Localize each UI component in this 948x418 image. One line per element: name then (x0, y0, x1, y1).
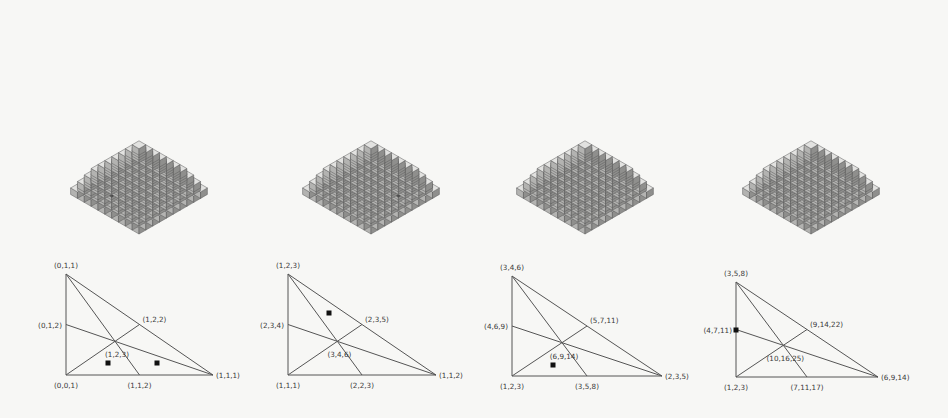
cube-stack-svg (711, 0, 948, 252)
median-line (66, 325, 213, 376)
label-centroid: (1,2,3) (105, 350, 129, 359)
median-line (288, 325, 436, 376)
triangle-svg: (3,5,8)(4,7,11)(9,14,22)(10,16,25)(1,2,3… (711, 252, 948, 418)
median-line (736, 330, 878, 378)
cube-stack-svg (237, 0, 474, 252)
label-bottom-mid: (2,2,3) (350, 381, 374, 390)
triangle-diagram-3: (3,4,6)(4,6,9)(5,7,11)(6,9,14)(1,2,3)(3,… (474, 252, 711, 418)
vertex-label-bottom-left: (1,2,3) (724, 383, 748, 392)
median-line (512, 276, 587, 376)
label-left-mid: (0,1,2) (38, 321, 62, 330)
vertex-label-bottom-left: (1,1,1) (276, 381, 300, 390)
cube-stack-1 (0, 0, 237, 252)
cube-stack-2 (237, 0, 474, 252)
triangle-diagram-4: (3,5,8)(4,7,11)(9,14,22)(10,16,25)(1,2,3… (711, 252, 948, 418)
triangle-diagram-1: (0,1,1)(0,1,2)(1,2,2)(1,2,3)(0,0,1)(1,1,… (0, 252, 237, 418)
label-hyp-mid: (5,7,11) (590, 316, 619, 325)
label-centroid: (6,9,14) (550, 352, 579, 361)
triangle-diagram-2: (1,2,3)(2,3,4)(2,3,5)(3,4,6)(1,1,1)(2,2,… (237, 252, 474, 418)
vertex-label-bottom-left: (1,2,3) (500, 382, 524, 391)
label-hyp-mid: (1,2,2) (143, 315, 167, 324)
label-left-mid: (4,7,11) (704, 326, 733, 335)
cube-stack-4 (711, 0, 948, 252)
marker-dot (327, 311, 332, 316)
label-left-mid: (2,3,4) (260, 321, 284, 330)
vertex-label-bottom-right: (1,1,2) (439, 371, 463, 380)
marker-dot (155, 361, 160, 366)
median-line (66, 274, 140, 375)
label-centroid: (3,4,6) (327, 350, 351, 359)
vertex-label-bottom-right: (2,3,5) (665, 372, 689, 381)
vertex-label-top: (1,2,3) (276, 261, 300, 270)
cube-stack-3 (474, 0, 711, 252)
vertex-label-top: (0,1,1) (54, 261, 78, 270)
label-left-mid: (4,6,9) (484, 322, 508, 331)
cube-stack-svg (474, 0, 711, 252)
cube-stack-svg (0, 0, 237, 252)
vertex-label-top: (3,5,8) (724, 269, 748, 278)
vertex-label-bottom-left: (0,0,1) (54, 381, 78, 390)
label-centroid: (10,16,25) (767, 354, 805, 363)
marker-dot (106, 361, 111, 366)
label-hyp-mid: (2,3,5) (365, 315, 389, 324)
label-bottom-mid: (3,5,8) (575, 382, 599, 391)
median-line (512, 326, 662, 376)
triangle-svg: (3,4,6)(4,6,9)(5,7,11)(6,9,14)(1,2,3)(3,… (474, 252, 711, 418)
vertex-label-top: (3,4,6) (500, 263, 524, 272)
triangle-svg: (0,1,1)(0,1,2)(1,2,2)(1,2,3)(0,0,1)(1,1,… (0, 252, 237, 418)
label-hyp-mid: (9,14,22) (810, 320, 843, 329)
vertex-label-bottom-right: (6,9,14) (881, 373, 910, 382)
figure: (0,1,1)(0,1,2)(1,2,2)(1,2,3)(0,0,1)(1,1,… (0, 0, 948, 418)
marker-dot (551, 363, 556, 368)
median-line (288, 274, 362, 375)
label-bottom-mid: (7,11,17) (790, 383, 823, 392)
median-line (736, 330, 807, 378)
label-bottom-mid: (1,1,2) (128, 381, 152, 390)
marker-dot (734, 328, 739, 333)
triangle-svg: (1,2,3)(2,3,4)(2,3,5)(3,4,6)(1,1,1)(2,2,… (237, 252, 474, 418)
